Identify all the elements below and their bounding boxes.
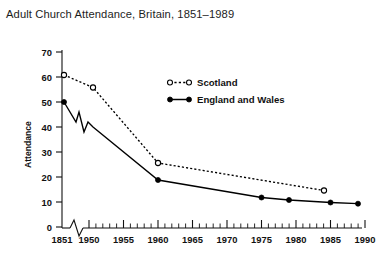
series-england-and-wales-point-1979 [287,198,292,203]
legend-entry-england-and-wales: England and Wales [168,94,285,105]
chart-figure: Adult Church Attendance, Britain, 1851–1… [0,0,386,257]
x-tick-label-1990: 1990 [355,234,376,245]
chart-plot-area: 70 60 50 40 30 20 10 0 Attendance [0,0,386,257]
legend-entry-scotland: Scotland [168,77,238,88]
legend-marker-england-and-wales-end [187,97,192,102]
y-axis-ticks [56,52,62,227]
x-tick-label-1955: 1955 [113,234,134,245]
y-tick-label-50: 50 [42,97,52,108]
y-tick-label-60: 60 [42,72,52,83]
y-tick-label-40: 40 [42,122,52,133]
series-scotland-point-1851 [61,72,66,77]
x-tick-label-1965: 1965 [182,234,203,245]
x-tick-label-1970: 1970 [217,234,238,245]
y-tick-label-30: 30 [42,147,52,158]
legend-label-england-and-wales: England and Wales [197,94,285,105]
x-tick-label-1950: 1950 [79,234,100,245]
series-england-and-wales [62,100,361,207]
series-england-and-wales-point-1975 [259,195,264,200]
legend-marker-england-and-wales-start [168,97,173,102]
series-england-and-wales-point-1985 [328,200,333,205]
chart-legend: Scotland England and Wales [168,77,285,105]
series-scotland-line [64,75,324,191]
x-tick-label-1980: 1980 [286,234,307,245]
y-tick-label-10: 10 [42,197,52,208]
series-england-and-wales-point-1851 [62,100,67,105]
series-scotland [61,72,326,193]
series-scotland-point-1951 [90,85,95,90]
series-england-and-wales-point-1989 [356,201,361,206]
legend-marker-scotland-end [187,80,192,85]
series-england-and-wales-point-1960 [156,178,161,183]
x-tick-label-1975: 1975 [251,234,272,245]
x-tick-label-1985: 1985 [320,234,341,245]
series-scotland-point-1984 [321,188,326,193]
legend-label-scotland: Scotland [197,77,238,88]
y-tick-label-70: 70 [42,47,52,58]
x-tick-label-1851: 1851 [52,234,73,245]
series-scotland-point-1960 [155,160,160,165]
legend-marker-scotland-start [168,80,173,85]
y-tick-label-0: 0 [47,222,52,233]
series-england-and-wales-line [64,102,358,204]
y-tick-label-20: 20 [42,172,52,183]
y-axis-title: Attendance [23,121,33,168]
x-tick-label-1960: 1960 [148,234,169,245]
